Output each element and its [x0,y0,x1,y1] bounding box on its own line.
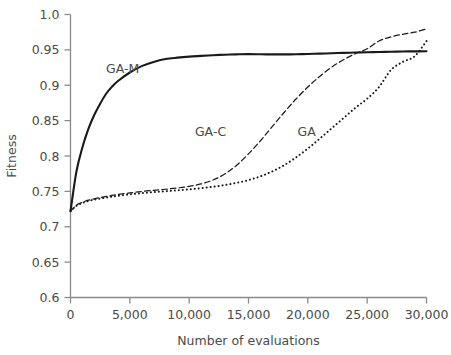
x-axis-ticks [71,298,427,304]
x-axis-tick-labels: 05,00010,00015,00020,00025,00030,000 [67,307,449,322]
series-label-ga-m: GA-M [106,61,139,76]
y-tick-label: 0.85 [32,113,60,128]
x-tick-label: 10,000 [167,307,211,322]
y-tick-label: 0.6 [40,290,60,305]
y-tick-label: 0.8 [40,149,60,164]
chart-canvas: 0.60.650.70.750.80.850.90.951.0 05,00010… [0,0,451,355]
x-tick-label: 30,000 [405,307,449,322]
x-tick-label: 0 [67,307,75,322]
y-tick-label: 0.75 [32,184,60,199]
y-axis: 0.60.650.70.750.80.850.90.951.0 [32,7,71,305]
series-annotation-labels: GA-MGA-CGA [106,61,316,139]
y-tick-label: 1.0 [40,7,60,22]
fitness-convergence-chart: 0.60.650.70.750.80.850.90.951.0 05,00010… [0,0,451,355]
y-tick-label: 0.7 [40,219,60,234]
x-tick-label: 25,000 [345,307,389,322]
series-line-ga-c [71,29,427,211]
y-tick-label: 0.9 [40,78,60,93]
y-tick-label: 0.95 [32,42,60,57]
x-tick-label: 20,000 [286,307,330,322]
y-tick-label: 0.65 [32,255,60,270]
x-tick-label: 5,000 [112,307,148,322]
x-axis: 05,00010,00015,00020,00025,00030,000 [67,298,449,322]
y-axis-ticks [65,15,71,298]
x-axis-title: Number of evaluations [177,333,319,348]
y-axis-tick-labels: 0.60.650.70.750.80.850.90.951.0 [32,7,60,305]
series-label-ga-c: GA-C [195,124,226,139]
x-tick-label: 15,000 [227,307,271,322]
y-axis-title: Fitness [4,134,19,177]
data-series-group [71,29,427,211]
series-label-ga: GA [298,124,317,139]
